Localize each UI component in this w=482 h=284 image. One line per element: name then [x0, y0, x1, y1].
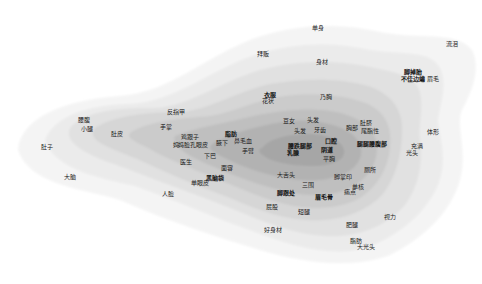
term-label: 腰腹: [78, 116, 90, 123]
term-label: 人脸: [162, 190, 174, 197]
term-label: 大光头: [357, 243, 374, 250]
term-label: 脚跟处: [277, 189, 294, 196]
term-label: 鸡跟子: [181, 133, 198, 140]
term-label: 乃胸: [320, 93, 332, 100]
term-label: 口腔: [325, 137, 337, 144]
term-label: 屁股: [266, 203, 278, 210]
term-label: 头发: [307, 116, 319, 123]
term-label: 胸部: [346, 124, 358, 131]
term-labels-layer: 单身流泪拜贩身材脚掉胎不佳边编眉毛衣服花状乃胸反指甲腰腹小腿手掌肚皮鸡跟子妈妈脸…: [0, 0, 482, 284]
term-label: 肚脐: [360, 119, 372, 126]
term-label: 好身材: [264, 226, 281, 233]
term-label: 花状: [262, 97, 274, 104]
term-label: 腿腿腰腹部: [357, 140, 386, 147]
term-label: 黑脑袋: [206, 174, 223, 181]
term-label: 短腿: [298, 208, 310, 215]
term-label: 手臂: [242, 147, 254, 154]
term-label: 光头: [406, 149, 418, 156]
term-label: 身材: [316, 58, 328, 65]
term-label: 大脑: [64, 173, 76, 180]
term-label: 肚子: [41, 143, 53, 150]
term-label: 牙齿: [314, 126, 326, 133]
term-label: 眉毛: [427, 75, 439, 82]
term-label: 下巴: [204, 152, 216, 159]
term-label: 脚掌印: [334, 173, 351, 180]
term-label: 平胸: [323, 155, 335, 162]
term-label: 体形: [427, 128, 439, 135]
term-label: 腋下: [216, 139, 228, 146]
term-label: 大舌头: [277, 171, 294, 178]
term-label: 小腿: [81, 125, 93, 132]
term-label: 豆女: [283, 117, 295, 124]
term-label: 鼻毛血: [234, 137, 251, 144]
term-label: 拜贩: [257, 50, 269, 57]
term-label: 头发: [294, 127, 306, 134]
term-label: 单身: [312, 24, 324, 31]
term-label: 阴道: [321, 146, 333, 153]
term-label: 手掌: [160, 123, 172, 130]
term-label: 妈妈脸孔眼皮: [173, 141, 208, 148]
term-label: 医生: [180, 158, 192, 165]
term-label: 反指甲: [167, 108, 184, 115]
term-label: 肥腿: [346, 221, 358, 228]
term-label: 痛点: [344, 188, 356, 195]
term-label: 眉毛骨: [315, 193, 332, 200]
term-label: 乳腺: [287, 149, 299, 156]
term-label: 尾脂性: [361, 127, 378, 134]
term-label: 不佳边编: [401, 75, 424, 82]
term-label: 肚皮: [111, 130, 123, 137]
term-label: 流泪: [446, 40, 458, 47]
term-label: 视力: [384, 213, 396, 220]
term-label: 厕所: [364, 166, 376, 173]
term-label: 三围: [302, 181, 314, 188]
term-label: 充满: [411, 142, 423, 149]
term-label: 面容: [221, 164, 233, 171]
term-label: 脂肪: [225, 130, 237, 137]
term-label: 脚掉胎: [404, 68, 421, 75]
term-label: 腰跌腿部: [288, 142, 311, 149]
